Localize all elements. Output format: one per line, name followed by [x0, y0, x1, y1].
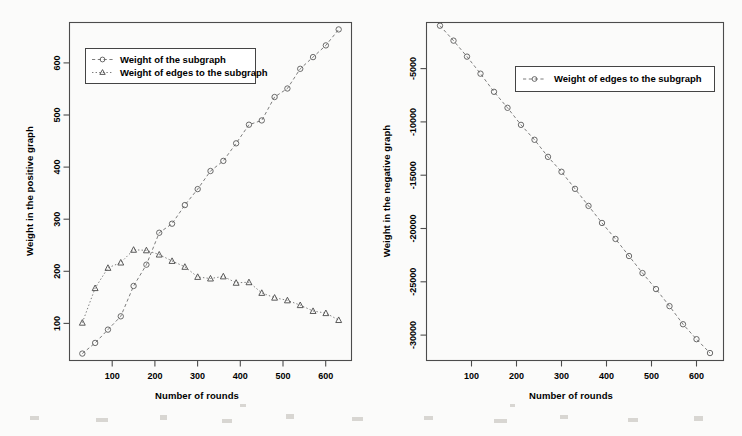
x-tick-label: 200 — [147, 371, 162, 381]
chart-positive-graph: 100 200 300 400 500 600 100 200 300 40 — [0, 0, 371, 436]
y-tick-label: 400 — [52, 160, 62, 175]
legend-label: Weight of the subgraph — [120, 54, 226, 65]
open-circle-marker — [182, 202, 187, 207]
x-axis-ticks-left — [112, 361, 326, 367]
y-axis-tick-labels-left: 100 200 300 400 500 600 — [52, 55, 62, 331]
open-triangle-marker — [195, 274, 201, 280]
open-circle-marker — [653, 286, 658, 291]
y-tick-label: 300 — [52, 212, 62, 227]
open-triangle-marker — [220, 273, 226, 279]
open-circle-marker — [559, 169, 564, 174]
legend-left[interactable]: Weight of the subgraph Weight of edges t… — [86, 49, 268, 84]
x-axis-tick-labels-left: 100 200 300 400 500 600 — [105, 371, 334, 381]
x-tick-label: 500 — [644, 371, 659, 381]
y-tick-label: -20000 — [408, 214, 418, 242]
open-triangle-marker — [182, 264, 188, 270]
y-axis-title: Weight in the negative graph — [381, 125, 392, 258]
y-axis-ticks-right — [421, 69, 427, 336]
x-tick-label: 100 — [464, 371, 479, 381]
plot-area-positive: 100 200 300 400 500 600 100 200 300 40 — [0, 0, 371, 436]
x-axis-ticks-right — [472, 361, 697, 367]
x-axis-tick-labels-right: 100 200 300 400 500 600 — [464, 371, 704, 381]
open-triangle-marker — [105, 265, 111, 271]
open-circle-marker — [491, 89, 496, 94]
open-circle-marker — [478, 71, 483, 76]
y-tick-label: -25000 — [408, 268, 418, 296]
figure-page: 100 200 300 400 500 600 100 200 300 40 — [0, 0, 742, 436]
x-tick-label: 600 — [318, 371, 333, 381]
y-tick-label: -30000 — [408, 321, 418, 349]
x-axis-title: Number of rounds — [529, 390, 613, 401]
y-tick-label: 200 — [52, 264, 62, 279]
legend-label: Weight of edges to the subgraph — [554, 73, 702, 84]
y-tick-label: -5000 — [408, 57, 418, 80]
open-circle-marker — [221, 158, 226, 163]
series-line — [82, 250, 338, 323]
open-circle-marker — [246, 122, 251, 127]
open-circle-marker — [694, 336, 699, 341]
y-tick-label: 600 — [52, 55, 62, 70]
chart-negative-graph: -5000 -10000 -15000 -20000 -25000 -30000… — [371, 0, 742, 436]
y-axis-ticks-left — [64, 63, 70, 324]
y-tick-label: -15000 — [408, 161, 418, 189]
x-tick-label: 100 — [105, 371, 120, 381]
x-tick-label: 500 — [275, 371, 290, 381]
y-tick-label: -10000 — [408, 108, 418, 136]
open-triangle-marker — [118, 259, 124, 265]
y-axis-tick-labels-right: -5000 -10000 -15000 -20000 -25000 -30000 — [408, 57, 418, 349]
open-circle-marker — [259, 118, 264, 123]
y-axis-title: Weight in the positive graph — [24, 126, 35, 256]
x-tick-label: 300 — [190, 371, 205, 381]
open-circle-marker — [613, 236, 618, 241]
legend-label: Weight of edges to the subgraph — [120, 67, 268, 78]
y-tick-label: 100 — [52, 316, 62, 331]
legend-right[interactable]: Weight of edges to the subgraph — [516, 67, 715, 92]
open-circle-marker — [233, 141, 238, 146]
x-tick-label: 400 — [233, 371, 248, 381]
x-tick-label: 400 — [599, 371, 614, 381]
open-circle-marker — [92, 340, 97, 345]
plot-area-negative: -5000 -10000 -15000 -20000 -25000 -30000… — [371, 0, 742, 436]
y-tick-label: 500 — [52, 107, 62, 122]
x-tick-label: 300 — [554, 371, 569, 381]
open-triangle-marker — [336, 317, 342, 323]
x-tick-label: 600 — [689, 371, 704, 381]
open-circle-marker — [336, 27, 341, 32]
open-circle-marker — [169, 221, 174, 226]
x-axis-title: Number of rounds — [155, 390, 239, 401]
x-tick-label: 200 — [509, 371, 524, 381]
open-circle-marker — [532, 137, 537, 142]
open-circle-marker — [131, 283, 136, 288]
